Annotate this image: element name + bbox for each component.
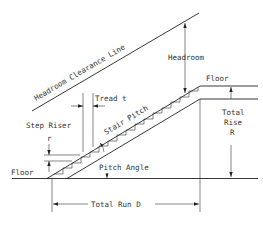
riser-arrow-bottom	[47, 161, 50, 166]
total-run-arrow-left	[53, 202, 58, 205]
tread-arrow-right	[93, 104, 98, 107]
headroom-arrow-bottom	[183, 88, 186, 93]
stair-diagram: Headroom Clearance Line Floor Floor Tota…	[0, 0, 263, 227]
lower-floor-label: Floor	[11, 168, 34, 177]
headroom-label: Headroom	[168, 53, 205, 62]
total-rise-arrow-top	[229, 87, 232, 92]
total-rise-label-2: Rise	[224, 118, 243, 127]
upper-floor-label: Floor	[206, 74, 229, 83]
riser-arrow-top	[47, 150, 50, 155]
total-run-label: Total Run D	[91, 200, 141, 209]
total-rise-symbol: R	[230, 128, 235, 137]
headroom-arrow-top	[183, 23, 186, 28]
total-rise-arrow-bottom	[229, 172, 232, 177]
total-run-arrow-right	[194, 202, 199, 205]
pitch-angle-arrow-bottom	[106, 174, 109, 179]
step-riser-label: Step Riser	[26, 121, 72, 130]
tread-label: Tread t	[95, 94, 127, 103]
total-rise-label-1: Total	[222, 108, 245, 117]
tread-arrow-left	[78, 104, 83, 107]
step-riser-symbol: r	[47, 134, 52, 143]
pitch-angle-label: Pitch Angle	[99, 163, 149, 172]
